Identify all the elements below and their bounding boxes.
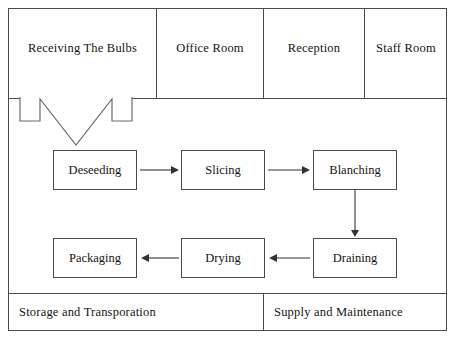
room-receiving-the-bulbs: Receiving The Bulbs — [9, 26, 156, 71]
room-staff-room: Staff Room — [365, 26, 447, 71]
room-supply-and-maintenance: Supply and Maintenance — [264, 294, 447, 331]
process-label: Slicing — [205, 163, 240, 178]
process-box-deseeding: Deseeding — [53, 150, 137, 190]
room-label: Storage and Transporation — [19, 305, 156, 320]
process-box-drying: Drying — [181, 238, 265, 278]
arrow-slicing-to-blanching — [268, 163, 311, 177]
process-label: Blanching — [329, 163, 380, 178]
process-box-slicing: Slicing — [181, 150, 265, 190]
room-reception: Reception — [264, 26, 364, 71]
diagram-canvas: Receiving The Bulbs Office Room Receptio… — [0, 0, 455, 341]
process-label: Deseeding — [69, 163, 122, 178]
room-office-room: Office Room — [157, 26, 263, 71]
room-label: Reception — [288, 41, 340, 56]
arrow-draining-to-drying — [268, 251, 311, 265]
room-label: Staff Room — [376, 41, 436, 56]
room-label: Receiving The Bulbs — [28, 41, 137, 56]
arrow-blanching-to-draining — [348, 190, 362, 238]
room-label: Office Room — [176, 41, 244, 56]
process-label: Packaging — [69, 251, 121, 266]
process-label: Drying — [205, 251, 240, 266]
inlet-block-arrow-icon — [18, 96, 134, 150]
process-box-draining: Draining — [313, 238, 397, 278]
arrow-drying-to-packaging — [140, 251, 180, 265]
arrow-deseeding-to-slicing — [140, 163, 180, 177]
room-storage-and-transportation: Storage and Transporation — [9, 294, 263, 331]
process-box-blanching: Blanching — [313, 150, 397, 190]
room-label: Supply and Maintenance — [274, 305, 403, 320]
process-label: Draining — [333, 251, 377, 266]
process-box-packaging: Packaging — [53, 238, 137, 278]
